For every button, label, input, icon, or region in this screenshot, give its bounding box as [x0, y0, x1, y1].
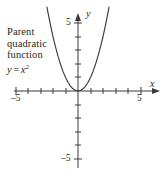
y-axis-tick-label-max: 5 [66, 17, 71, 27]
parent-function-annotation: Parent quadratic function y=x2 [7, 26, 69, 75]
annotation-equation: y=x2 [7, 64, 69, 76]
equation-lhs: y [7, 64, 12, 75]
annotation-line-1: Parent [7, 26, 34, 37]
equation-exponent: 2 [26, 62, 30, 70]
x-axis-tick-label-max: 5 [137, 93, 142, 103]
quadratic-parent-function-figure: Parent quadratic function y=x2 y x –5 5 … [0, 0, 167, 175]
y-axis-arrow-icon [75, 13, 81, 21]
equation-operator: = [13, 64, 19, 75]
annotation-line-3: function [7, 49, 43, 60]
annotation-line-2: quadratic [7, 38, 47, 49]
y-axis-label: y [86, 8, 90, 19]
y-axis-tick-label-min: –5 [61, 153, 71, 163]
x-axis-label: x [150, 78, 154, 89]
x-axis-tick-label-min: –5 [11, 93, 21, 103]
